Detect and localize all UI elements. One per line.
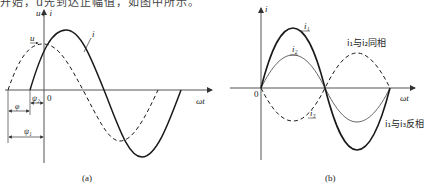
b-x-axis-label: ωt [400, 93, 409, 103]
b-i1-label: i₁ [304, 21, 310, 31]
a-y-axis-label: u、i [36, 8, 53, 18]
a-caption: (a) [82, 173, 92, 183]
b-i3-label: i₃ [310, 108, 316, 118]
b-y-axis-label: i [265, 4, 268, 14]
a-origin-label: 0 [47, 93, 52, 103]
panel-b: i ωt 0 i₁ i₂ i₃ i₁与i₂同相 i₁与i₃反相 (b) [230, 4, 424, 183]
b-anti-phase-note: i₁与i₃反相 [385, 118, 424, 129]
b-in-phase-note: i₁与i₂同相 [347, 37, 386, 48]
b-caption: (b) [325, 173, 336, 183]
phase-diagrams: u、i ωt 0 i u ψ₂ φ ψ₁ (a) i ωt 0 i₁ [0, 0, 431, 185]
a-current-label: i [92, 29, 95, 39]
a-voltage-label: u [30, 33, 35, 43]
a-psi1-label: ψ₁ [24, 127, 32, 136]
a-psi2-label: ψ₂ [32, 94, 40, 103]
b-origin-label: 0 [254, 89, 259, 99]
a-phi-label: φ [15, 102, 20, 111]
panel-a: u、i ωt 0 i u ψ₂ φ ψ₁ (a) [5, 8, 212, 183]
a-current-curve [30, 30, 181, 157]
a-current-leader [84, 38, 91, 52]
a-x-axis-label: ωt [196, 96, 205, 106]
b-i2-label: i₂ [292, 44, 298, 54]
